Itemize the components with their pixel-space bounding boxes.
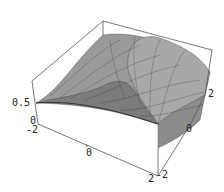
y-tick-0: 0 (186, 124, 192, 134)
surface-plot (0, 0, 224, 192)
x-tick-neg2: -2 (26, 125, 38, 135)
surface (36, 34, 210, 148)
x-tick-0: 0 (86, 148, 92, 158)
y-tick-neg2: -2 (156, 170, 168, 180)
x-tick-2: 2 (148, 174, 154, 184)
z-tick-0.5: 0.5 (12, 98, 30, 108)
y-tick-2: 2 (208, 89, 214, 99)
